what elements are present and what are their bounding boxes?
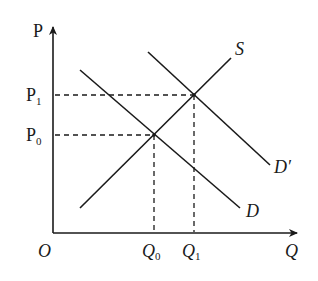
equilibrium-point-e1: [192, 93, 196, 97]
q0-label: Q0: [142, 241, 161, 262]
supply-curve: [80, 58, 231, 208]
y-axis-label: P: [33, 21, 43, 41]
supply-demand-diagram: P Q O P1 P0 Q0 Q1 S D D′: [0, 0, 318, 281]
p1-label: P1: [26, 85, 42, 107]
shifted-demand-curve-label: D′: [273, 157, 292, 177]
p0-label: P0: [26, 125, 42, 147]
origin-label: O: [38, 241, 51, 261]
demand-curve-label: D: [245, 201, 259, 221]
shifted-demand-curve: [148, 52, 270, 165]
q1-label: Q1: [182, 241, 201, 262]
supply-curve-label: S: [235, 39, 244, 59]
demand-curve: [80, 70, 240, 208]
equilibrium-point-e0: [152, 133, 156, 137]
x-axis-label: Q: [285, 241, 298, 261]
